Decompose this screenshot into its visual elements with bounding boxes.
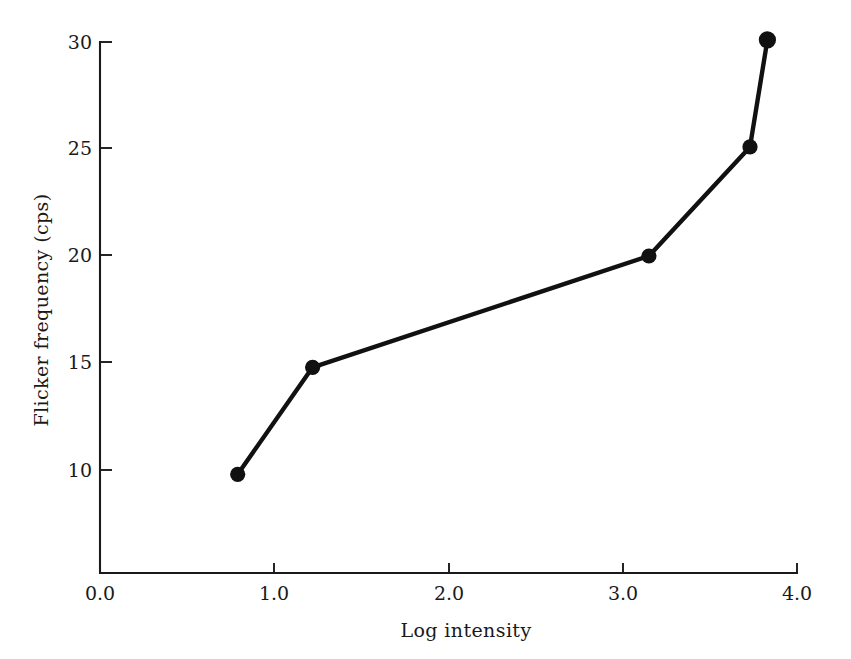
axis-spines [100,42,797,573]
x-axis-ticks [274,563,797,573]
data-point [230,467,245,482]
data-series-flicker-frequency [230,31,776,482]
y-axis-tick-labels: 30 25 20 15 10 [68,31,92,481]
y-tick-label-15: 15 [68,351,92,373]
series-line [238,40,768,474]
x-tick-label-4: 4.0 [782,582,812,604]
y-tick-label-25: 25 [68,137,92,159]
y-tick-label-30: 30 [68,31,92,53]
data-point [742,139,757,154]
x-tick-label-1: 1.0 [259,582,289,604]
x-axis-tick-labels: 0.0 1.0 2.0 3.0 4.0 [85,582,812,604]
y-tick-label-20: 20 [68,244,92,266]
y-axis-ticks [100,42,112,470]
x-axis-title: Log intensity [400,619,531,641]
y-tick-label-10: 10 [68,459,92,481]
data-point [641,248,656,263]
data-point [759,31,776,48]
line-chart: 30 25 20 15 10 0.0 1.0 2.0 3.0 4.0 Log i… [0,0,851,659]
series-markers [230,31,776,482]
y-axis-title: Flicker frequency (cps) [30,193,52,426]
x-tick-label-0: 0.0 [85,582,115,604]
figure-canvas: 30 25 20 15 10 0.0 1.0 2.0 3.0 4.0 Log i… [0,0,851,659]
x-tick-label-3: 3.0 [608,582,638,604]
data-point [305,360,320,375]
x-tick-label-2: 2.0 [434,582,464,604]
